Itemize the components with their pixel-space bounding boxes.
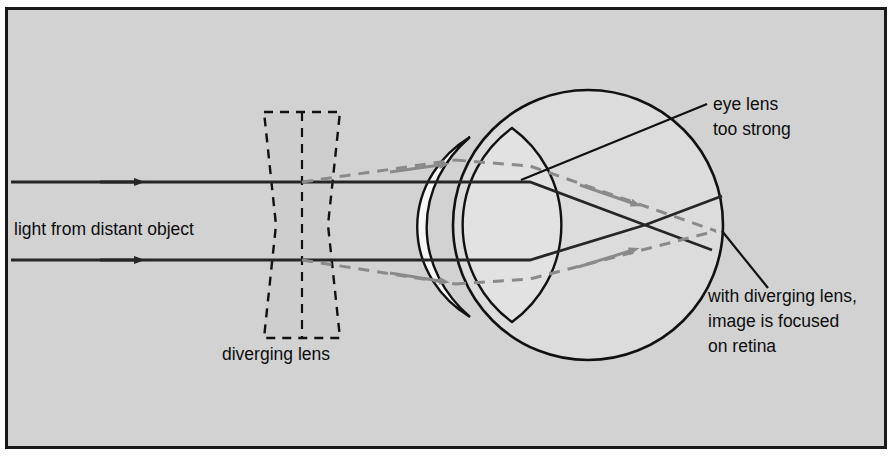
label-incoming-light: light from distant object	[14, 219, 194, 239]
label-eye-lens-line2: too strong	[713, 119, 791, 139]
optics-diagram-figure: light from distant object diverging lens…	[0, 0, 893, 457]
label-correction-line1: with diverging lens,	[707, 286, 857, 306]
label-correction-line3: on retina	[708, 336, 776, 356]
diagram-canvas: light from distant object diverging lens…	[0, 0, 893, 457]
label-diverging-lens: diverging lens	[222, 344, 330, 364]
label-correction-line2: image is focused	[708, 311, 839, 331]
label-eye-lens-line1: eye lens	[713, 94, 778, 114]
